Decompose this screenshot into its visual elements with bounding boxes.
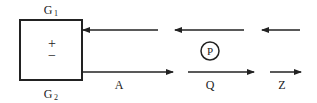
minus-sign: −	[48, 48, 56, 63]
p-label: P	[207, 45, 213, 57]
g1-subscript: 1	[54, 9, 58, 18]
a-label: A	[115, 78, 124, 92]
g2-subscript: 2	[54, 93, 58, 102]
g2-label: G	[44, 87, 53, 101]
diagram-canvas: + − G 1 G 2 P A Q Z	[0, 0, 317, 103]
q-label: Q	[206, 78, 215, 92]
g1-label: G	[44, 3, 53, 17]
z-label: Z	[278, 78, 285, 92]
diagram: + − G 1 G 2 P A Q Z	[0, 0, 317, 103]
